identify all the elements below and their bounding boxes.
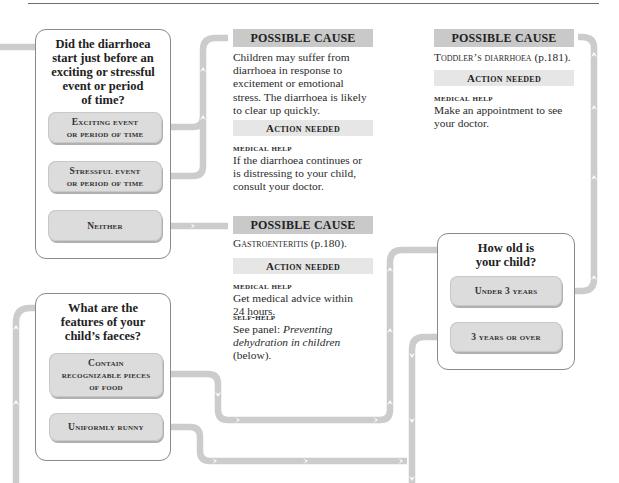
cause-diagnosis: Gastroenteritis (p.180). [233,237,383,250]
option-recognizable-food[interactable]: Contain recognizable pieces of food [49,353,163,397]
text-line: consult your doctor. [233,180,383,193]
text-line: diarrhoea in response to [233,64,383,77]
option-under-3-years[interactable]: Under 3 years [450,276,562,306]
action-needed-header: Action needed [233,120,373,136]
title-line: of time? [36,93,170,107]
panel-reference-link[interactable]: dehydration in children [233,336,383,349]
panel-reference-link[interactable]: Preventing [283,323,333,335]
action-medical-help: medical help Make an appointment to see … [434,92,584,130]
option-label: Uniformly runny [68,421,144,433]
title-line: exciting or stressful [36,65,170,79]
option-label: or period of time [67,128,144,140]
title-line: How old is [438,241,574,255]
text-line: your doctor. [434,117,584,130]
option-label: Under 3 years [475,285,538,297]
cause-diagnosis: Toddler’s diarrhoea (p.181). [434,51,584,64]
text-line: Make an appointment to see [434,104,584,117]
text-line: is distressing to your child, [233,167,383,180]
action-label: medical help [233,142,383,154]
option-3-years-or-over[interactable]: 3 years or over [450,322,562,352]
stressful-connector [163,38,228,176]
action-label: medical help [233,280,383,292]
action-needed-header: Action needed [434,70,574,86]
action-label: self-help [233,311,383,323]
option-label: Exciting event [67,116,144,128]
option-stressful-event[interactable]: Stressful eventor period of time [48,161,162,192]
page-reference: (p.181). [532,51,571,63]
text-line: (below). [233,349,383,362]
text-span: See panel: [233,323,283,335]
action-medical-help: medical help If the diarrhoea continues … [233,142,383,194]
text-line: stress. The diarrhoea is likely [233,91,383,104]
option-label: Neither [87,220,123,232]
title-line: start just before an [36,51,170,65]
question-title: How old is your child? [438,241,574,269]
possible-cause-header: POSSIBLE CAUSE [233,29,373,47]
cause-description: Children may suffer from diarrhoea in re… [233,51,383,117]
option-label: of food [62,381,151,393]
title-line: features of your [36,315,170,329]
diagnosis-link[interactable]: Toddler’s diarrhoea [434,51,532,63]
title-line: What are the [36,301,170,315]
option-label: Stressful event [67,165,144,177]
question-title: What are the features of your child’s fa… [36,301,170,343]
option-exciting-event[interactable]: Exciting eventor period of time [48,112,162,143]
option-label: recognizable pieces [62,369,151,381]
title-line: child’s faeces? [36,329,170,343]
possible-cause-header: POSSIBLE CAUSE [233,216,373,234]
page-reference: (p.180). [308,237,347,249]
title-line: your child? [438,255,574,269]
question-title: Did the diarrhoea start just before an e… [36,37,170,107]
option-neither[interactable]: Neither [48,210,162,241]
text-line: excitement or emotional [233,77,383,90]
text-line: Get medical advice within [233,292,383,305]
action-self-help: self-help See panel: Preventing dehydrat… [233,311,383,363]
option-uniformly-runny[interactable]: Uniformly runny [49,413,163,441]
text-line: Children may suffer from [233,51,383,64]
action-label: medical help [434,92,584,104]
option-label: 3 years or over [471,331,540,343]
diagnosis-link[interactable]: Gastroenteritis [233,237,308,249]
action-needed-header: Action needed [233,258,373,274]
title-line: event or period [36,79,170,93]
text-line: to clear up quickly. [233,104,383,117]
option-label: Contain [62,357,151,369]
text-line: If the diarrhoea continues or [233,154,383,167]
runny-connector [163,427,407,461]
possible-cause-header: POSSIBLE CAUSE [434,29,574,47]
option-label: or period of time [67,177,144,189]
title-line: Did the diarrhoea [36,37,170,51]
